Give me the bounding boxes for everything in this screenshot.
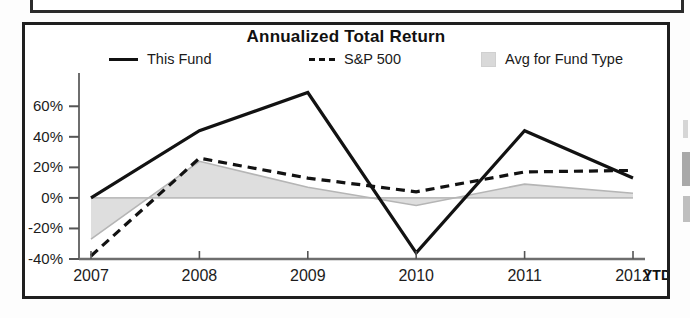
y-axis-tick-label: 20% xyxy=(33,158,63,175)
x-axis-tick-label: 2010 xyxy=(398,267,434,284)
x-axis-ticks xyxy=(91,251,633,259)
chart-svg: 60%40%20%0%-20%-40% 20072008200920102011… xyxy=(25,25,667,296)
y-axis-ticks xyxy=(69,106,79,259)
y-axis-tick-labels: 60%40%20%0%-20%-40% xyxy=(28,97,63,267)
y-axis-tick-label: -40% xyxy=(28,250,63,267)
y-axis-tick-label: -20% xyxy=(28,219,63,236)
scan-edge-artifact xyxy=(682,152,690,186)
x-axis-ytd-label: YTD xyxy=(643,267,667,283)
x-axis-tick-label: 2011 xyxy=(507,267,542,284)
x-axis-tick-labels: 200720082009201020112012 xyxy=(73,267,651,284)
y-axis-tick-label: 0% xyxy=(41,189,63,206)
plot-area: 60%40%20%0%-20%-40% 20072008200920102011… xyxy=(25,25,667,296)
page-top-box-fragment xyxy=(30,0,684,13)
scanned-page: Annualized Total Return This Fund S&P 50… xyxy=(0,0,690,318)
scan-edge-artifact xyxy=(683,120,688,138)
annualized-total-return-chart: Annualized Total Return This Fund S&P 50… xyxy=(22,22,670,299)
x-axis-tick-label: 2007 xyxy=(73,267,109,284)
y-axis-tick-label: 60% xyxy=(33,97,63,114)
x-axis-tick-label: 2008 xyxy=(182,267,218,284)
y-axis-tick-label: 40% xyxy=(33,128,63,145)
x-axis-tick-label: 2009 xyxy=(290,267,326,284)
scan-edge-artifact xyxy=(683,196,690,222)
